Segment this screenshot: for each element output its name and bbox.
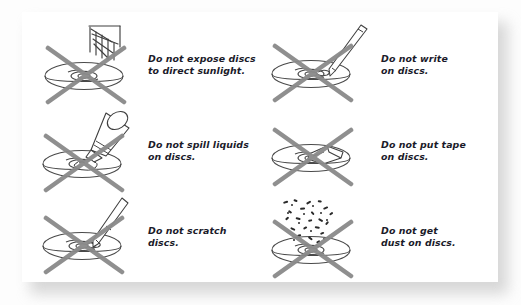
- figure-canvas: Do not expose discs to direct sunlight.: [0, 0, 521, 305]
- panel-dust: Do not get dust on discs.: [261, 194, 490, 280]
- dust-particles-over-disc-icon: [261, 194, 379, 280]
- panel-write: Do not write on discs.: [261, 22, 490, 108]
- tape-on-disc-icon: [261, 108, 379, 194]
- sun-rays-over-disc-icon: [32, 22, 150, 108]
- panel-scratch: Do not scratch discs.: [32, 194, 261, 280]
- sharp-tool-scratching-disc-icon: [32, 194, 150, 280]
- instruction-card: Do not expose discs to direct sunlight.: [22, 12, 498, 282]
- panel-liquids: Do not spill liquids on discs.: [32, 108, 261, 194]
- panel-caption: Do not get dust on discs.: [381, 225, 456, 250]
- pen-writing-on-disc-icon: [261, 22, 379, 108]
- panel-tape: Do not put tape on discs.: [261, 108, 490, 194]
- panel-caption: Do not expose discs to direct sunlight.: [148, 53, 256, 78]
- bottle-spilling-liquid-on-disc-icon: [32, 108, 150, 194]
- panel-sunlight: Do not expose discs to direct sunlight.: [32, 22, 261, 108]
- panel-caption: Do not write on discs.: [381, 53, 448, 78]
- panel-grid: Do not expose discs to direct sunlight.: [22, 12, 498, 282]
- panel-caption: Do not spill liquids on discs.: [148, 139, 249, 164]
- panel-caption: Do not scratch discs.: [148, 225, 227, 250]
- panel-caption: Do not put tape on discs.: [381, 139, 466, 164]
